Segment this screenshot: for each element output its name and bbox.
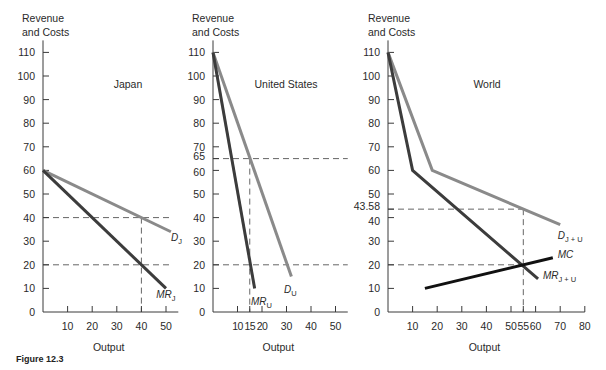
y-tick-label: 40: [193, 212, 205, 224]
series-label: DJ + U: [558, 230, 583, 244]
series-label: MRU: [251, 296, 272, 310]
y-tick-label: 30: [193, 235, 205, 247]
y-tick-label: 40: [368, 215, 380, 227]
y-tick-label: 80: [23, 117, 35, 129]
y-tick-label: 60: [193, 166, 205, 178]
x-tick-label: 20: [431, 320, 443, 332]
y-tick-label: 110: [188, 46, 205, 58]
y-tick-label: 110: [363, 46, 380, 58]
series-mr-j-u: [388, 52, 538, 279]
y-tick-label: 100: [362, 70, 380, 82]
y-tick-label: 100: [17, 70, 35, 82]
x-tick-label: 60: [530, 320, 542, 332]
y-axis-label: and Costs: [22, 26, 69, 38]
y-axis-label: Revenue: [368, 12, 410, 24]
panel-title: World: [473, 78, 500, 90]
y-tick-label: 90: [193, 94, 205, 106]
y-tick-label: 100: [187, 70, 205, 82]
figure-12-3: Revenueand CostsJapan0102030405060708090…: [0, 0, 606, 370]
series-mr-j: [43, 170, 166, 288]
panel-title: Japan: [114, 78, 143, 90]
y-tick-label: 20: [23, 259, 35, 271]
x-tick-label: 80: [579, 320, 591, 332]
y-tick-label: 0: [29, 306, 35, 318]
y-tick-label: 70: [368, 141, 380, 153]
panel-title: United States: [254, 78, 317, 90]
x-axis-label: Output: [263, 341, 295, 353]
y-tick-label: 0: [374, 306, 380, 318]
series-label: DU: [284, 284, 297, 298]
x-tick-label: 15: [245, 320, 256, 332]
y-tick-label: 70: [23, 141, 35, 153]
y-tick-label: 20: [368, 259, 380, 271]
series-mc: [425, 258, 553, 289]
x-tick-label: 40: [481, 320, 493, 332]
y-tick-label: 40: [23, 212, 35, 224]
y-tick-label: 90: [23, 94, 35, 106]
x-tick-label: 30: [281, 320, 293, 332]
y-tick-label: 60: [23, 164, 35, 176]
y-tick-label: 30: [368, 235, 380, 247]
united-states-panel: Revenueand CostsUnited States01020304050…: [187, 12, 347, 353]
y-tick-label: 30: [23, 235, 35, 247]
series-d-j: [43, 170, 171, 231]
y-tick-label: 20: [193, 259, 205, 271]
y-tick-label: 50: [368, 188, 380, 200]
x-tick-label: 50: [160, 320, 172, 332]
x-tick-label: 10: [407, 320, 419, 332]
x-axis-label: Output: [93, 341, 125, 353]
y-tick-label: 70: [193, 141, 205, 153]
y-axis-label: and Costs: [192, 26, 239, 38]
x-tick-label: 20: [86, 320, 98, 332]
series-label: MRJ: [156, 289, 176, 303]
japan-panel: Revenueand CostsJapan0102030405060708090…: [17, 12, 182, 353]
series-label: MC: [558, 249, 574, 260]
x-tick-label: 70: [554, 320, 566, 332]
series-mr-u: [213, 52, 255, 288]
x-tick-label: 40: [305, 320, 317, 332]
x-tick-label: 10: [62, 320, 74, 332]
y-tick-label: 50: [23, 188, 35, 200]
y-tick-label: 50: [193, 188, 205, 200]
x-tick-label: 30: [111, 320, 123, 332]
x-tick-label: 50: [505, 320, 517, 332]
series-label: MRJ + U: [543, 270, 576, 284]
y-tick-label: 80: [193, 117, 205, 129]
y-tick-label: 80: [368, 117, 380, 129]
y-tick-label: 43.58: [354, 200, 380, 212]
y-tick-label: 10: [193, 282, 205, 294]
y-axis-label: Revenue: [22, 12, 64, 24]
x-tick-label: 30: [456, 320, 468, 332]
x-tick-label: 50: [330, 320, 342, 332]
x-tick-label: 40: [136, 320, 148, 332]
y-tick-label: 110: [18, 46, 35, 58]
figure-caption: Figure 12.3: [16, 354, 64, 364]
x-axis-label: Output: [469, 341, 501, 353]
x-tick-label: 10: [232, 320, 243, 332]
y-tick-label: 60: [368, 164, 380, 176]
y-tick-label: 90: [368, 94, 380, 106]
y-tick-label: 10: [23, 282, 35, 294]
series-label: DJ: [171, 232, 182, 246]
x-tick-label: 20: [257, 320, 268, 332]
y-tick-label: 0: [199, 306, 205, 318]
x-tick-label: 55: [517, 320, 529, 332]
y-axis-label: Revenue: [192, 12, 234, 24]
world-panel: Revenueand CostsWorld01020304043.5850607…: [354, 12, 591, 353]
y-tick-label: 10: [368, 282, 380, 294]
y-axis-label: and Costs: [368, 26, 415, 38]
